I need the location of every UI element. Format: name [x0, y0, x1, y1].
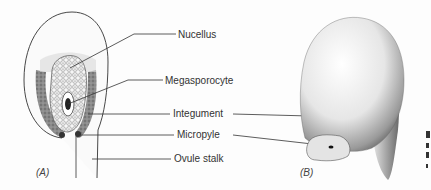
- label-megasporocyte: Megasporocyte: [164, 75, 234, 87]
- ovule-figure: Nucellus Megasporocyte Integument Microp…: [0, 0, 431, 190]
- ovule-section-a: [24, 12, 108, 178]
- label-ovule-stalk: Ovule stalk: [173, 153, 224, 165]
- panel-label-b: (B): [300, 167, 313, 178]
- label-integument: Integument: [172, 108, 224, 120]
- panel-label-a: (A): [36, 167, 49, 178]
- label-nucellus: Nucellus: [177, 29, 217, 41]
- ovule-exterior-b: [300, 17, 404, 180]
- cropped-caption-fragments: [426, 131, 430, 168]
- label-micropyle: Micropyle: [176, 129, 221, 141]
